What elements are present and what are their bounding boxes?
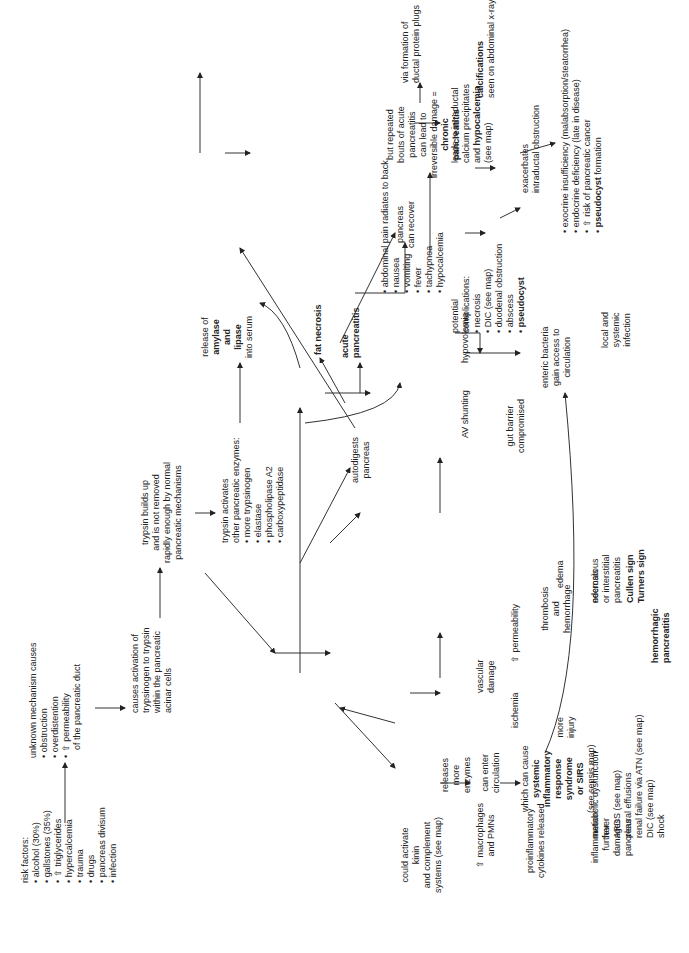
sirs-label: syndrome bbox=[564, 744, 575, 813]
text-line: injury bbox=[566, 716, 577, 738]
outcome-item: exocrine insufficiency (malabsorption/st… bbox=[560, 29, 571, 233]
risk-factor-item: pancreas divisum bbox=[97, 807, 108, 883]
enzyme-item: more trypsinogen bbox=[242, 437, 253, 543]
text-line: pancreatitis bbox=[612, 554, 623, 603]
node-activation: causes activation of trypsinogen to tryp… bbox=[130, 627, 174, 713]
text-line: acute bbox=[340, 307, 351, 358]
node-av-shunting: AV shunting bbox=[460, 390, 471, 438]
text-line: thrombosis bbox=[540, 584, 551, 633]
node-unknown-mechanism: unknown mechanism causes obstruction ove… bbox=[28, 642, 83, 758]
text-line: pancreas bbox=[395, 201, 406, 248]
node-autodigests: autodigests pancreas bbox=[350, 437, 372, 483]
text-line: infection bbox=[622, 312, 633, 348]
text-line: local and bbox=[600, 312, 611, 348]
text-line: ⇧ macrophages bbox=[475, 803, 486, 868]
text-line: bouts of acute bbox=[396, 91, 407, 178]
text-line: cytokines released bbox=[536, 803, 547, 878]
text-line: and bbox=[472, 145, 482, 163]
text-line: pancreatitis bbox=[661, 608, 672, 663]
text-line: pancreatic mechanisms bbox=[173, 462, 184, 563]
text-line: leads to intraductal bbox=[450, 84, 461, 163]
mechanism-item: overdistention bbox=[50, 642, 61, 758]
outcome-item: pseudocyst formation bbox=[593, 29, 604, 233]
text-line: but repeated bbox=[385, 91, 396, 178]
text-line: more bbox=[451, 757, 462, 793]
sirs-label: or SIRS bbox=[575, 744, 586, 813]
node-releases-enzymes: releases more enzymes bbox=[440, 757, 473, 793]
text-line: more bbox=[555, 716, 566, 738]
node-enteric-bacteria: enteric bacteria gain access to circulat… bbox=[540, 326, 573, 388]
node-exacerbates: exacerbates intraductal obstruction bbox=[520, 105, 542, 193]
enzyme-item: elastase bbox=[253, 437, 264, 543]
effect-item: renal failure via ATN (see map) bbox=[634, 715, 645, 838]
text-line: Cullen sign bbox=[625, 549, 636, 603]
node-necrosis: necrosis bbox=[590, 569, 601, 603]
pseudocyst-label: pseudocyst bbox=[593, 177, 603, 227]
node-pancreas-recover: pancreas can recover bbox=[395, 201, 417, 248]
text-line: gain access to bbox=[551, 326, 562, 388]
text-line: and is not removed bbox=[151, 462, 162, 563]
text-line: and PMNs bbox=[486, 803, 497, 868]
enzyme-item: phospholipase A2 bbox=[264, 437, 275, 543]
node-kinin: could activate kinin and complement syst… bbox=[400, 817, 444, 893]
text-line: within the pancreatic bbox=[152, 627, 163, 713]
node-release-amylase: release of amylase and lipase into serum bbox=[200, 316, 255, 358]
complication-item: duodenal obstruction bbox=[494, 244, 505, 333]
text-line: or interstitial bbox=[601, 554, 612, 603]
text-line: circulation bbox=[562, 326, 573, 388]
text-line: calcium precipitates bbox=[461, 84, 472, 163]
node-more-injury: more injury bbox=[555, 716, 577, 738]
effect-item: DIC (see map) bbox=[645, 715, 656, 838]
text-line: irreversible damage = bbox=[429, 91, 440, 178]
text-line: intraductal obstruction bbox=[531, 105, 542, 193]
risk-factors-heading: risk factors: bbox=[20, 807, 31, 883]
node-trypsin-activates: trypsin activates other pancreatic enzym… bbox=[220, 437, 286, 543]
node-local-systemic: local and systemic infection bbox=[600, 312, 633, 348]
text-line: exacerbates bbox=[520, 105, 531, 193]
text-line: Turners sign bbox=[636, 549, 647, 603]
symptom-item: abdominal pain radiates to back bbox=[380, 160, 391, 293]
mechanism-item: obstruction bbox=[39, 642, 50, 758]
text-line: compromised bbox=[516, 399, 527, 453]
text-line: damages bbox=[612, 812, 623, 863]
text-line: releases bbox=[440, 757, 451, 793]
node-gut-barrier: gut barrier compromised bbox=[505, 399, 527, 453]
node-hypovolemia: hypovolemia bbox=[460, 312, 471, 363]
text-line: could activate bbox=[400, 817, 411, 893]
risk-factor-item: ⇧ triglycerides bbox=[53, 807, 64, 883]
text-line: seen on abdominal x-ray bbox=[486, 0, 497, 98]
text-line: acinar cells bbox=[163, 627, 174, 713]
node-trypsin-builds: trypsin builds up and is not removed rap… bbox=[140, 462, 184, 563]
text-line: kinin bbox=[411, 817, 422, 893]
risk-factor-item: drugs bbox=[86, 807, 97, 883]
text-line: and complement bbox=[422, 817, 433, 893]
risk-factor-item: trauma bbox=[75, 807, 86, 883]
text-line: via formation of bbox=[400, 5, 411, 83]
text-line: systems (see map) bbox=[433, 817, 444, 893]
text-line: pancreatitis bbox=[351, 307, 362, 358]
text-line: and bbox=[551, 584, 562, 633]
risk-factor-item: alcohol (30%) bbox=[31, 807, 42, 883]
text-line: causes activation of bbox=[130, 627, 141, 713]
node-calcifications: calcifications seen on abdominal x-ray bbox=[475, 0, 497, 98]
node-hemorrhagic: hemorrhagic pancreatitis bbox=[650, 608, 672, 663]
text-line: can enter bbox=[480, 752, 491, 793]
node-can-enter: can enter circulation bbox=[480, 752, 502, 793]
text-line: circulation bbox=[491, 752, 502, 793]
symptom-item: hypocalcemia bbox=[435, 160, 446, 293]
text-line: trypsin activates bbox=[220, 437, 231, 543]
text-line: can recover bbox=[406, 201, 417, 248]
text-line: proinflammatory bbox=[525, 803, 536, 878]
lipase-label: lipase bbox=[233, 316, 244, 358]
node-risk-factors: risk factors: alcohol (30%) gallstones (… bbox=[20, 807, 119, 883]
text-line: enzymes bbox=[462, 757, 473, 793]
text-line: autodigests bbox=[350, 437, 361, 483]
text-line: trypsinogen to trypsin bbox=[141, 627, 152, 713]
mechanism-item: ⇧ permeability bbox=[61, 642, 72, 758]
complication-item: pseudocyst bbox=[516, 244, 527, 333]
text-line: hemorrhagic bbox=[650, 608, 661, 663]
outcome-item: ⇧ risk of pancreatic cancer bbox=[582, 29, 593, 233]
node-ductal-plugs: via formation of ductal protein plugs bbox=[400, 5, 422, 83]
amylase-label: amylase bbox=[211, 316, 222, 358]
calcifications-label: calcifications bbox=[475, 0, 486, 98]
